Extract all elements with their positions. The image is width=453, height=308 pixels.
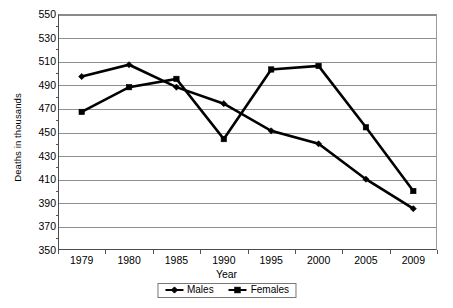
- data-point-females-2009: [411, 188, 416, 193]
- x-axis-tick-label: 1985: [165, 254, 188, 266]
- y-axis-tick-label: 490: [26, 80, 56, 91]
- data-point-males-1979: [79, 73, 85, 79]
- data-point-females-2000: [316, 63, 321, 68]
- legend-label: Males: [187, 285, 214, 295]
- data-point-females-2005: [363, 125, 368, 130]
- x-axis-tick-label: 1980: [117, 254, 140, 266]
- legend-square-marker-icon: [228, 285, 248, 295]
- y-axis-tick-label: 450: [26, 127, 56, 138]
- x-axis-tick: [58, 250, 59, 254]
- y-axis-tick-label: 550: [26, 9, 56, 20]
- data-point-females-1995: [268, 67, 273, 72]
- chart-legend: MalesFemales: [157, 283, 296, 298]
- y-axis-tick-label: 370: [26, 221, 56, 232]
- x-axis-title: Year: [0, 268, 453, 280]
- legend-entry-males[interactable]: Males: [164, 285, 214, 295]
- x-axis-tick: [390, 250, 391, 254]
- legend-label: Females: [251, 285, 289, 295]
- x-axis-tick-label: 1995: [260, 254, 283, 266]
- x-axis-tick: [295, 250, 296, 254]
- x-axis-tick-label: 2005: [354, 254, 377, 266]
- x-axis-tick-label: 2009: [402, 254, 425, 266]
- x-axis-tick-label: 2000: [307, 254, 330, 266]
- x-axis-tick-label: 1979: [70, 254, 93, 266]
- x-axis-tick: [342, 250, 343, 254]
- x-axis-tick-label: 1990: [212, 254, 235, 266]
- y-axis-tick-label: 410: [26, 174, 56, 185]
- line-chart: Deaths in thousands 35037039041043045047…: [0, 0, 453, 308]
- y-axis-tick-label: 530: [26, 32, 56, 43]
- data-point-females-1985: [174, 76, 179, 81]
- x-axis-tick: [248, 250, 249, 254]
- y-axis-tick-label: 470: [26, 103, 56, 114]
- legend-entry-females[interactable]: Females: [228, 285, 289, 295]
- x-axis-tick: [153, 250, 154, 254]
- x-axis-tick: [437, 250, 438, 254]
- legend-diamond-marker-icon: [164, 285, 184, 295]
- data-point-females-1979: [79, 109, 84, 114]
- series-layer: [58, 14, 437, 250]
- data-point-females-1990: [221, 136, 226, 141]
- x-axis-tick: [200, 250, 201, 254]
- data-point-females-1980: [126, 84, 131, 89]
- y-axis-tick-labels: 350370390410430450470490510530550: [20, 14, 56, 250]
- x-axis-tick: [105, 250, 106, 254]
- y-axis-tick-label: 390: [26, 198, 56, 209]
- y-axis-tick-label: 430: [26, 150, 56, 161]
- y-axis-tick-label: 350: [26, 245, 56, 256]
- y-axis-tick-label: 510: [26, 56, 56, 67]
